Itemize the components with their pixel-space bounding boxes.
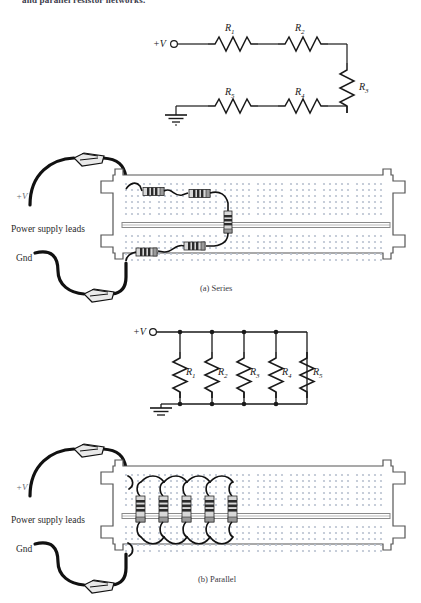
series-resistor-label-r2: R2 bbox=[294, 22, 305, 36]
series-resistor-4 bbox=[184, 242, 205, 250]
parallel-resistor-label-r5: R5 bbox=[312, 366, 323, 380]
parallel-caption: (b) Parallel bbox=[198, 574, 236, 584]
series-resistor-label-r1: R1 bbox=[224, 22, 235, 36]
alligator-clip-ground bbox=[84, 289, 114, 302]
alligator-clip-positive bbox=[74, 444, 104, 457]
alligator-clip-positive bbox=[74, 153, 104, 166]
parallel-resistor-label-r4: R4 bbox=[281, 366, 292, 380]
series-caption: (a) Series bbox=[200, 283, 232, 293]
series-resistor-3 bbox=[224, 211, 232, 233]
series-lead-label-positive: +V bbox=[16, 191, 28, 201]
figure-container: and parallel resistor networks. bbox=[0, 0, 421, 603]
series-lead-label-middle: Power supply leads bbox=[11, 224, 85, 234]
series-resistor-5 bbox=[136, 248, 157, 256]
series-lead-label-ground: Gnd bbox=[16, 253, 32, 263]
parallel-board-outline bbox=[101, 460, 405, 550]
series-center-channel bbox=[122, 223, 390, 228]
series-resistor-2 bbox=[189, 190, 210, 198]
series-ground-lead bbox=[35, 252, 126, 302]
series-resistor-label-r4: R4 bbox=[294, 86, 305, 100]
parallel-source-terminal bbox=[150, 329, 157, 336]
series-schematic: +V R1 R2 R3 R4 R5 bbox=[140, 18, 385, 133]
alligator-clip-ground bbox=[84, 580, 114, 593]
parallel-schematic: +V R1 R2 R3 R4 R5 bbox=[125, 318, 355, 418]
parallel-junction-dots bbox=[178, 330, 279, 407]
series-source-label: +V bbox=[153, 38, 168, 49]
parallel-source-label: +V bbox=[133, 326, 148, 337]
series-resistor-1 bbox=[143, 188, 164, 196]
parallel-lead-label-ground: Gnd bbox=[16, 544, 32, 554]
parallel-lead-label-positive: +V bbox=[16, 482, 28, 492]
truncated-running-text: and parallel resistor networks. bbox=[22, 0, 402, 7]
parallel-resistor-label-r1: R1 bbox=[185, 366, 196, 380]
parallel-resistor-label-r2: R2 bbox=[217, 366, 228, 380]
parallel-ground-symbol bbox=[150, 408, 172, 415]
series-ground-symbol bbox=[165, 115, 187, 125]
parallel-lead-label-middle: Power supply leads bbox=[11, 515, 85, 525]
series-source-terminal bbox=[171, 41, 178, 48]
series-resistor-label-r5: R5 bbox=[224, 86, 235, 100]
series-positive-lead bbox=[30, 153, 126, 205]
parallel-resistor-label-r3: R3 bbox=[249, 366, 260, 380]
series-board-outline bbox=[101, 169, 405, 259]
parallel-ground-lead bbox=[35, 543, 126, 593]
parallel-positive-lead bbox=[30, 444, 126, 496]
series-resistor-label-r3: R3 bbox=[358, 81, 369, 95]
